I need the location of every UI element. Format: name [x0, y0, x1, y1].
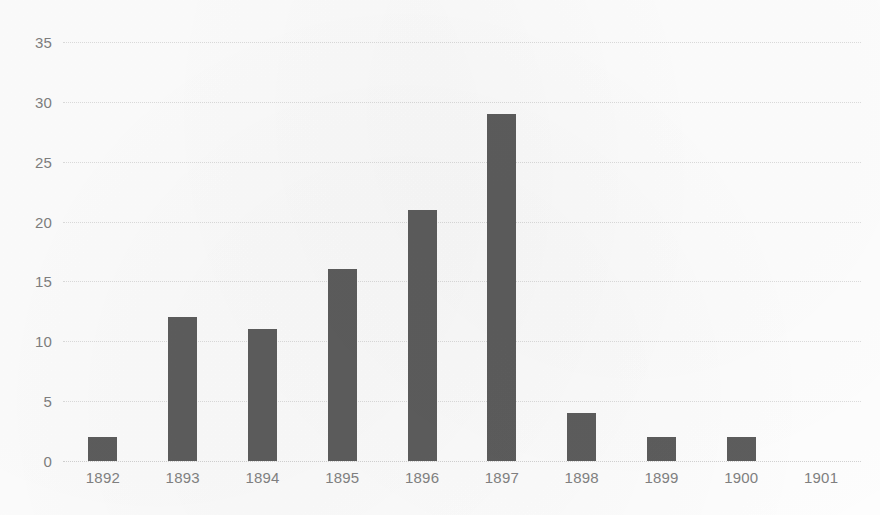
gridline-15: [63, 281, 861, 282]
bar-1898[interactable]: [567, 413, 596, 461]
gridline-30: [63, 102, 861, 103]
bar-chart: 05101520253035 1892189318941895189618971…: [0, 0, 880, 515]
y-axis-tick-label: 25: [12, 153, 52, 170]
y-axis: 05101520253035: [0, 42, 52, 461]
x-axis-tick-label: 1895: [302, 469, 382, 486]
plot-area: [63, 42, 861, 461]
bar-1897[interactable]: [487, 114, 516, 461]
gridline-25: [63, 162, 861, 163]
bar-1895[interactable]: [328, 269, 357, 461]
x-axis-tick-label: 1893: [143, 469, 223, 486]
gridline-20: [63, 222, 861, 223]
y-axis-tick-label: 0: [12, 453, 52, 470]
bar-1894[interactable]: [248, 329, 277, 461]
x-axis-tick-label: 1898: [542, 469, 622, 486]
x-axis-tick-label: 1892: [63, 469, 143, 486]
bar-1893[interactable]: [168, 317, 197, 461]
x-axis-tick-label: 1894: [223, 469, 303, 486]
gridline-35: [63, 42, 861, 43]
x-axis-tick-label: 1901: [781, 469, 861, 486]
bar-1892[interactable]: [88, 437, 117, 461]
y-axis-tick-label: 10: [12, 333, 52, 350]
x-axis-tick-label: 1896: [382, 469, 462, 486]
y-axis-tick-label: 5: [12, 393, 52, 410]
y-axis-tick-label: 15: [12, 273, 52, 290]
x-axis-tick-label: 1897: [462, 469, 542, 486]
gridline-0: [63, 461, 861, 462]
y-axis-tick-label: 35: [12, 34, 52, 51]
x-axis-tick-label: 1899: [622, 469, 702, 486]
bar-1900[interactable]: [727, 437, 756, 461]
y-axis-tick-label: 30: [12, 93, 52, 110]
bar-1899[interactable]: [647, 437, 676, 461]
y-axis-tick-label: 20: [12, 213, 52, 230]
bar-1896[interactable]: [408, 210, 437, 461]
x-axis-tick-label: 1900: [701, 469, 781, 486]
